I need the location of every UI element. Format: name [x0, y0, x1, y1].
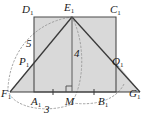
geometry-figure: D1 E1 C1 P1 Q1 F1 A1 M B1 G1 5 4 3 — [0, 0, 149, 119]
vertex-label-p1: P1 — [19, 56, 29, 67]
vertex-label-b1: B1 — [98, 96, 108, 107]
vertex-label-g1: G1 — [129, 88, 140, 99]
measure-label-3: 3 — [44, 104, 50, 115]
vertex-label-f1: F1 — [1, 88, 11, 99]
measure-label-5: 5 — [26, 38, 32, 49]
vertex-label-a1: A1 — [31, 96, 41, 107]
vertex-label-q1: Q1 — [112, 56, 123, 67]
vertex-label-d1: D1 — [22, 4, 33, 15]
vertex-label-e1: E1 — [64, 2, 74, 13]
measure-label-4: 4 — [74, 48, 80, 59]
vertex-label-c1: C1 — [110, 4, 121, 15]
vertex-label-m: M — [65, 96, 74, 107]
